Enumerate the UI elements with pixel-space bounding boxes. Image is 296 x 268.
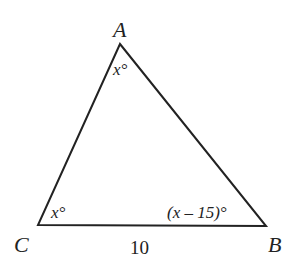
triangle-diagram: A C B x° x° (x – 15)° 10 — [0, 0, 296, 268]
vertex-label-c: C — [14, 232, 29, 257]
vertex-label-a: A — [111, 17, 127, 42]
vertex-label-b: B — [268, 232, 281, 257]
angle-label-b: (x – 15)° — [167, 203, 227, 222]
angle-label-c: x° — [50, 203, 66, 222]
angle-label-a: x° — [112, 60, 128, 79]
triangle-abc — [38, 44, 266, 226]
side-label-cb: 10 — [130, 237, 149, 258]
